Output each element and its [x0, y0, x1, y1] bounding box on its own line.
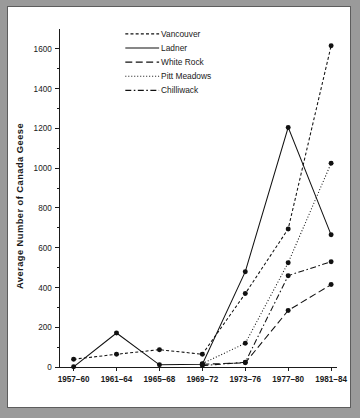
x-tick-label: 1961–64	[101, 375, 133, 384]
data-point-chilliwack	[200, 363, 205, 368]
y-tick-label: 200	[38, 323, 52, 332]
data-point-ladner	[243, 269, 248, 274]
x-tick-label: 1977–80	[272, 375, 304, 384]
data-point-vancouver	[286, 226, 291, 231]
data-point-vancouver	[243, 291, 248, 296]
data-point-chilliwack	[243, 360, 248, 365]
x-tick-label: 1973–76	[229, 375, 261, 384]
y-tick-label: 0	[47, 363, 52, 372]
y-tick-label: 1200	[34, 124, 53, 133]
data-point-chilliwack	[286, 273, 291, 278]
data-point-ladner	[329, 232, 334, 237]
y-axis-title: Average Number of Canada Geese	[15, 123, 25, 289]
x-tick-label: 1957–60	[58, 375, 90, 384]
y-tick-label: 1000	[34, 164, 53, 173]
data-point-vancouver	[157, 347, 162, 352]
series-line-vancouver	[74, 46, 331, 359]
x-tick-label: 1965–68	[144, 375, 176, 384]
canada-geese-line-chart: 02004006008001000120014001600Average Num…	[8, 7, 350, 407]
series-line-pitt-meadows	[202, 163, 331, 363]
y-tick-label: 1400	[34, 85, 53, 94]
legend-label-ladner: Ladner	[161, 43, 187, 53]
data-point-chilliwack	[329, 259, 334, 264]
y-tick-label: 800	[38, 204, 52, 213]
series-line-white-rock	[202, 285, 331, 365]
figure-frame: 02004006008001000120014001600Average Num…	[7, 6, 351, 408]
data-point-vancouver	[200, 352, 205, 357]
series-line-ladner	[74, 127, 331, 366]
data-point-white-rock	[286, 308, 291, 313]
y-tick-label: 1600	[34, 45, 53, 54]
x-tick-label: 1969–72	[187, 375, 219, 384]
data-point-vancouver	[114, 352, 119, 357]
legend-label-vancouver: Vancouver	[161, 29, 200, 39]
y-tick-label: 600	[38, 244, 52, 253]
legend-label-pitt-meadows: Pitt Meadows	[161, 71, 211, 81]
legend-label-white-rock: White Rock	[161, 57, 204, 67]
data-point-pitt-meadows	[286, 260, 291, 265]
data-point-ladner	[286, 125, 291, 130]
x-tick-label: 1981–84	[315, 375, 347, 384]
data-point-vancouver	[329, 43, 334, 48]
data-point-ladner	[157, 362, 162, 367]
data-point-pitt-meadows	[329, 161, 334, 166]
legend-label-chilliwack: Chilliwack	[161, 85, 199, 95]
data-point-white-rock	[329, 282, 334, 287]
data-point-vancouver	[71, 357, 76, 362]
data-point-ladner	[114, 330, 119, 335]
series-line-chilliwack	[202, 262, 331, 366]
data-point-pitt-meadows	[243, 341, 248, 346]
data-point-ladner	[71, 364, 76, 369]
y-tick-label: 400	[38, 284, 52, 293]
